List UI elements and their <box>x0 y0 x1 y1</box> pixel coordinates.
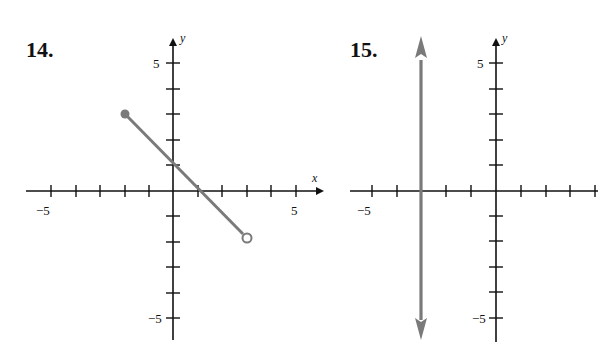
y-axis-label: y <box>501 31 508 45</box>
y-tick-label-5: 5 <box>153 56 160 71</box>
arrow-up-icon <box>415 36 427 58</box>
closed-endpoint <box>121 110 130 119</box>
y-tick-label-neg5: −5 <box>472 311 486 326</box>
problem-number-15: 15. <box>350 37 378 62</box>
x-tick-label-5: 5 <box>291 203 298 218</box>
problem-number-14: 14. <box>26 37 54 62</box>
arrow-down-icon <box>415 318 427 340</box>
graph-14: 14. <box>26 31 322 340</box>
y-tick-label-neg5: −5 <box>148 311 162 326</box>
figure: 14. <box>0 0 598 356</box>
open-endpoint <box>243 234 252 243</box>
y-axis-label: y <box>179 31 186 45</box>
y-tick-label-5: 5 <box>477 56 484 71</box>
graph-15: 15. −5 <box>350 31 598 342</box>
x-tick-label-neg5: −5 <box>36 203 50 218</box>
x-axis-label: x <box>311 171 318 185</box>
x-tick-label-neg5: −5 <box>357 203 371 218</box>
segment-line <box>125 114 243 234</box>
